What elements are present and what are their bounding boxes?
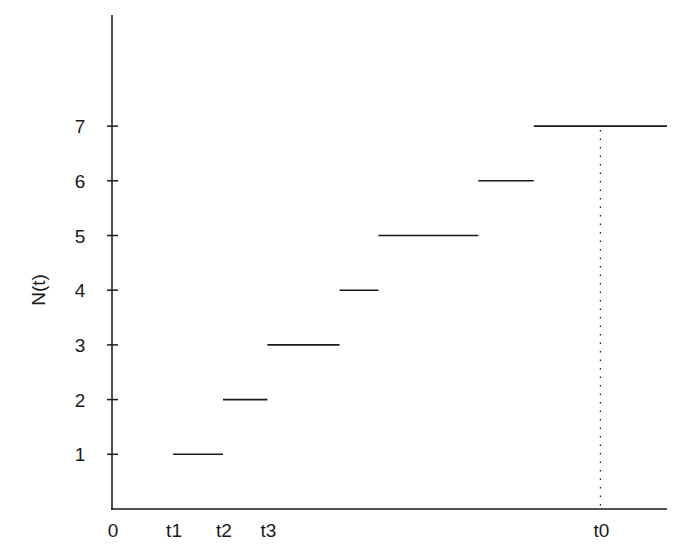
y-tick-label: 2 bbox=[75, 390, 86, 411]
x-tick-labels: 0t1t2t3t0 bbox=[108, 520, 610, 541]
y-axis-label: N(t) bbox=[28, 274, 49, 306]
axes bbox=[111, 15, 667, 510]
y-tick-label: 3 bbox=[75, 335, 86, 356]
x-tick-label-t0: t0 bbox=[593, 520, 609, 541]
y-tick-label: 1 bbox=[75, 444, 86, 465]
x-tick-label-t3: t3 bbox=[260, 520, 276, 541]
x-tick-label-0: 0 bbox=[108, 520, 119, 541]
step-chart: 1234567 0t1t2t3t0 N(t) bbox=[0, 0, 681, 559]
y-tick-label: 7 bbox=[75, 116, 86, 137]
y-tick-label: 6 bbox=[75, 171, 86, 192]
x-tick-label-t2: t2 bbox=[216, 520, 232, 541]
y-tick-label: 5 bbox=[75, 226, 86, 247]
step-segments bbox=[173, 126, 667, 454]
x-tick-label-t1: t1 bbox=[166, 520, 182, 541]
y-tick-label: 4 bbox=[75, 280, 86, 301]
